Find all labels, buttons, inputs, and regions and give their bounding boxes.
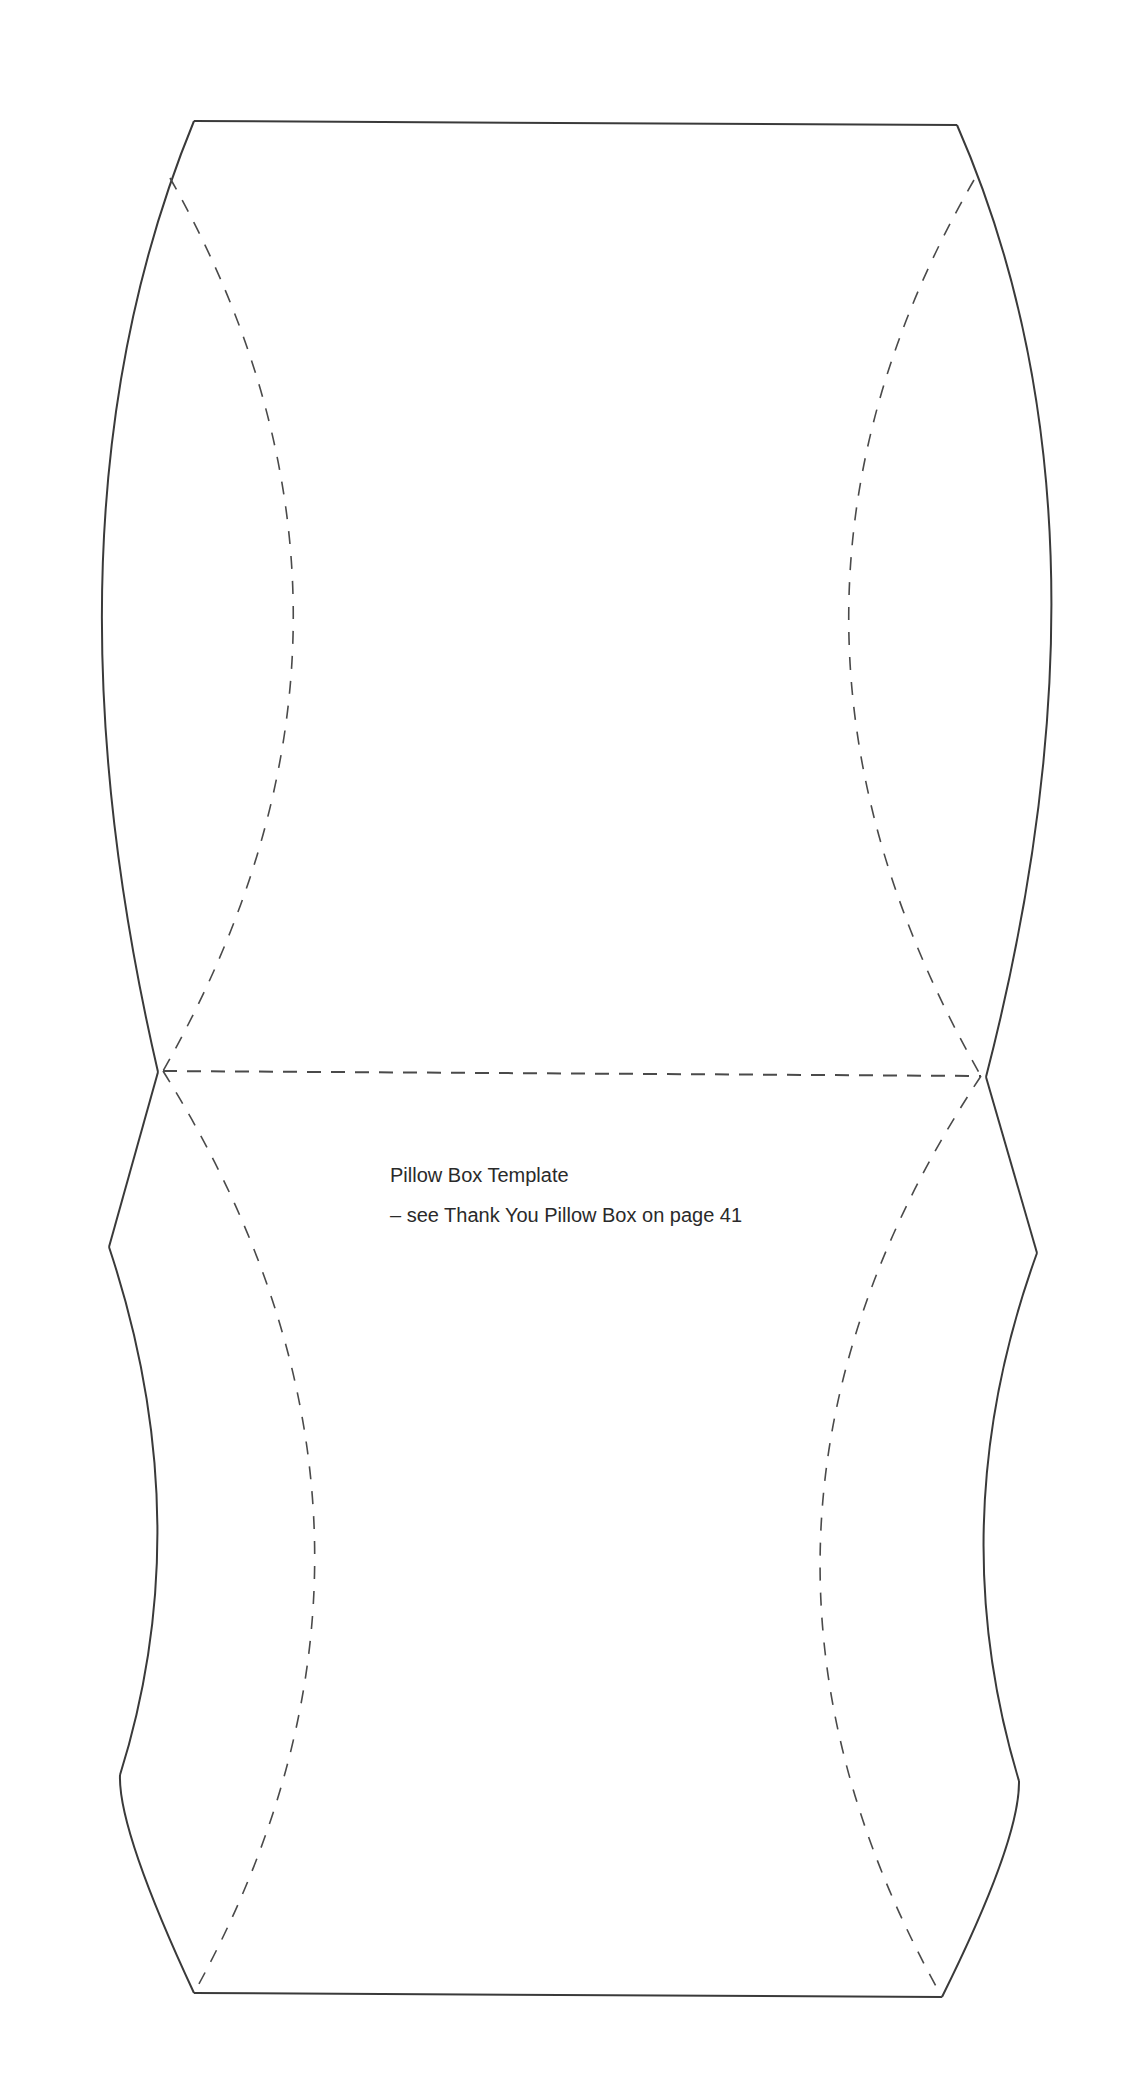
cut-line-lower-right-curve bbox=[984, 1253, 1037, 1781]
cut-line-lower-right-upper-segment bbox=[986, 1077, 1037, 1253]
pillow-box-template bbox=[0, 0, 1125, 2086]
template-reference: – see Thank You Pillow Box on page 41 bbox=[390, 1195, 742, 1235]
cut-line-upper-left-curve bbox=[102, 121, 194, 1072]
cut-line-lower-left-curve bbox=[109, 1247, 157, 1775]
fold-line-lower-left bbox=[163, 1071, 315, 1993]
cut-line-lower-left-upper-segment bbox=[109, 1072, 158, 1247]
fold-line-lower-right bbox=[820, 1076, 981, 1997]
cut-line-lower-left-bottom-segment bbox=[120, 1775, 194, 1993]
cut-line-bottom-edge bbox=[194, 1993, 942, 1997]
fold-line-upper-right bbox=[849, 180, 981, 1076]
template-title: Pillow Box Template bbox=[390, 1155, 742, 1195]
cut-line-upper-right-curve bbox=[957, 125, 1051, 1077]
fold-line-upper-left bbox=[163, 178, 293, 1071]
cut-line-lower-right-bottom-segment bbox=[942, 1781, 1019, 1997]
fold-line-center bbox=[163, 1071, 981, 1076]
cut-line-top-edge bbox=[194, 121, 957, 125]
template-caption: Pillow Box Template – see Thank You Pill… bbox=[390, 1155, 742, 1235]
